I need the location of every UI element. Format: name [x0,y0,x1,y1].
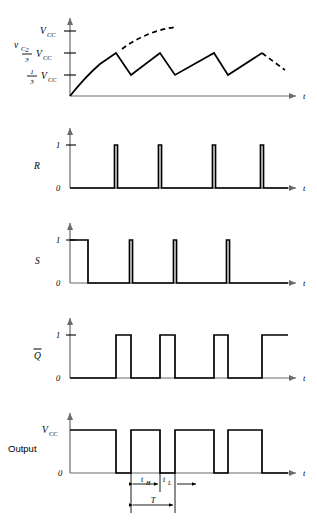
r-x-axis-label: t [303,183,306,193]
qbar-label-one: 1 [56,330,60,340]
vc-label-one-third-sub: CC [48,76,57,83]
vc-x-axis-label: t [303,91,306,101]
r-waveform [70,145,288,188]
vc-label-one-third-main: V [41,71,48,81]
t-low-label-main: t [163,475,166,484]
vc-label-vcc-main: V [40,26,47,36]
panel-qbar: Q 1 0 t [34,318,307,383]
output-label-vcc-main: V [42,425,49,435]
r-signal-label: R [33,161,40,171]
s-label-one: 1 [56,235,60,245]
qbar-waveform [70,335,288,378]
r-label-zero: 0 [56,183,61,193]
vc-waveform [70,53,262,96]
t-high-label-main: t [141,475,144,484]
s-x-axis-label: t [303,278,306,288]
output-waveform [70,430,288,473]
qbar-x-axis-label: t [303,373,306,383]
panel-vc: v C V CC 2 3 V CC 1 3 V CC t [14,18,306,101]
vc-label-vcc-sub: CC [47,31,56,38]
s-label-zero: 0 [56,278,61,288]
vc-frac-two-thirds-numerator: 2 [25,46,29,54]
s-signal-label: S [35,256,40,266]
qbar-label-zero: 0 [56,373,61,383]
output-label-vcc-sub: CC [49,430,58,437]
panel-output: Output V CC 0 t [8,413,306,478]
s-waveform [70,240,288,283]
timing-diagram-svg: v C V CC 2 3 V CC 1 3 V CC t R 1 0 t [0,0,317,528]
vc-label-two-thirds-main: V [36,49,43,59]
figure-canvas: v C V CC 2 3 V CC 1 3 V CC t R 1 0 t [0,0,317,528]
vc-frac-one-third-denominator: 3 [29,78,34,86]
vc-frac-two-thirds-denominator: 3 [24,56,29,64]
panel-s: S 1 0 t [35,223,306,288]
vc-signal-label: v [14,40,19,50]
t-low-label-sub: L [167,480,172,486]
period-label: T [151,495,157,505]
vc-asymptote-dashed [122,27,176,49]
vc-trailing-dashed [262,53,285,70]
vc-frac-one-third-numerator: 1 [30,68,34,76]
vc-label-two-thirds-sub: CC [43,54,52,61]
output-signal-label: Output [8,443,37,454]
qbar-signal-label: Q [34,351,41,361]
panel-r: R 1 0 t [33,128,306,193]
output-label-zero: 0 [58,468,63,478]
timing-annotations: t H t L T [131,473,196,513]
output-x-axis-label: t [303,468,306,478]
t-high-label-sub: H [145,480,151,486]
r-label-one: 1 [56,140,60,150]
